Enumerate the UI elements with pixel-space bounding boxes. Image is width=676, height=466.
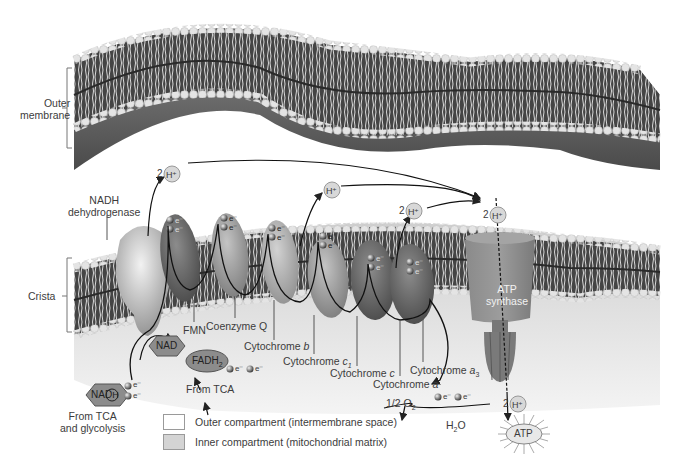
legend-item-outer: Outer compartment (intermembrane space) — [163, 414, 397, 430]
proton-count-4: 2 — [483, 209, 489, 221]
outer-membrane-label: Outer membrane — [20, 97, 70, 121]
electron-label: e⁻ — [463, 391, 471, 403]
svg-text:e⁻: e⁻ — [376, 263, 384, 272]
proton-count-3: 2 — [399, 205, 405, 217]
proton-2: H⁺ — [326, 185, 338, 197]
proton-4: H⁺ — [492, 210, 504, 222]
crista-bracket — [62, 258, 72, 332]
svg-text:e⁻: e⁻ — [277, 224, 285, 233]
svg-text:e⁻: e⁻ — [229, 223, 237, 232]
electron-label: e⁻ — [443, 391, 451, 403]
svg-text:e⁻: e⁻ — [175, 225, 183, 234]
svg-text:e⁻: e⁻ — [328, 241, 336, 250]
svg-text:e⁻: e⁻ — [277, 233, 285, 242]
proton-1: H⁺ — [166, 169, 178, 181]
atp-label: ATP — [514, 428, 533, 440]
nadh-dehydrogenase-label: NADH dehydrogenase — [68, 194, 140, 218]
atp-synthase-label: ATP synthase — [486, 283, 528, 307]
proton-count-5: 2 — [503, 398, 509, 410]
cytochrome-b-label: Cytochrome b — [244, 340, 309, 352]
electron-label: e⁻ — [133, 390, 141, 402]
legend-swatch-outer — [163, 414, 185, 430]
coenzyme-q-label: Coenzyme Q — [206, 320, 267, 332]
fadh2-label: FADH2 — [192, 355, 223, 371]
proton-count-1: 2 — [157, 168, 163, 180]
electron-label: e⁻ — [255, 363, 263, 375]
crista-label: Crista — [28, 290, 55, 302]
svg-text:e⁻: e⁻ — [229, 214, 237, 223]
electron-label: e⁻ — [235, 363, 243, 375]
oxygen-label: 1/2 O2 — [386, 397, 416, 414]
svg-text:e⁻: e⁻ — [328, 232, 336, 241]
water-label: H2O — [446, 419, 466, 436]
outer-membrane — [74, 28, 660, 170]
svg-text:e⁻: e⁻ — [415, 258, 423, 267]
proton-5: H⁺ — [512, 399, 524, 411]
source-tca-label: From TCA — [186, 383, 234, 395]
fmn-label: FMN — [183, 324, 206, 336]
proton-3: H⁺ — [408, 206, 420, 218]
etc-diagram: e⁻e⁻ e⁻e⁻ e⁻e⁻ e⁻e⁻ e⁻e⁻ e⁻e⁻ — [0, 0, 676, 466]
nad-label: NAD — [156, 340, 177, 352]
legend-item-inner: Inner compartment (mitochondrial matrix) — [163, 434, 387, 450]
svg-text:e⁻: e⁻ — [175, 216, 183, 225]
svg-text:e⁻: e⁻ — [376, 254, 384, 263]
nadh-label: NADH — [91, 389, 119, 401]
cytochrome-a3-label: Cytochrome a3 — [410, 364, 479, 381]
legend-swatch-inner — [163, 434, 185, 450]
svg-text:e⁻: e⁻ — [415, 267, 423, 276]
source-tca-glycolysis-label: From TCA and glycolysis — [60, 410, 125, 434]
